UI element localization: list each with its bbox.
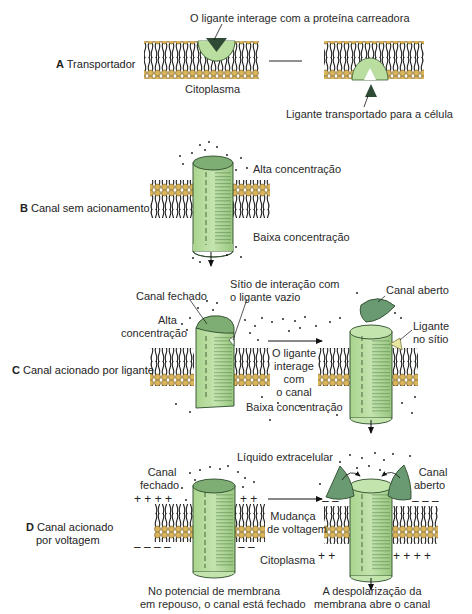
label-channel-open: Canal aberto	[386, 284, 449, 297]
label-ligand-interacts-line4: o canal	[268, 386, 320, 399]
svg-text:– – – –: – – – –	[134, 540, 171, 554]
panel-a-title: A Transportador	[56, 58, 136, 71]
panel-b-title: B Canal sem acionamento	[20, 202, 150, 215]
label-high-line1: Alta	[158, 314, 177, 327]
label-low-concentration: Baixa concentração	[246, 401, 343, 414]
label-voltage-change-line2: de voltagem	[262, 523, 332, 536]
gate-flap-right	[388, 465, 411, 500]
label-resting-line2: em repouso, o canal está fechado	[140, 598, 288, 611]
panel-d-title-line2: por voltagem	[36, 534, 100, 547]
label-ligand-bound-line2: no sítio	[413, 333, 448, 346]
label-extracellular-fluid: Líquido extracelular	[237, 451, 333, 464]
label-closed-line1: Canal	[140, 466, 184, 479]
panel-d-title-line1: D Canal acionado	[26, 521, 113, 534]
svg-text:+ + + +: + + + +	[393, 549, 431, 563]
label-ligand-binds-carrier: O ligante interage com a proteína carrea…	[190, 12, 410, 25]
label-cytoplasm: Citoplasma	[260, 554, 315, 567]
svg-text:+ +: + +	[240, 492, 257, 506]
gate-flap-left	[326, 466, 354, 499]
label-ligand-interacts-line3: com	[268, 373, 320, 386]
label-ligand-interacts-line1: O ligante	[268, 347, 320, 360]
svg-text:– – –: – – –	[412, 494, 439, 508]
label-ligand-interacts-line2: interage	[268, 360, 320, 373]
label-ligand-bound-line1: Ligante	[413, 320, 449, 333]
label-low-concentration: Baixa concentração	[253, 231, 350, 244]
label-high-concentration: Alta concentração	[253, 163, 341, 176]
panel-c-title: C Canal acionado por ligante	[12, 364, 154, 377]
label-cytoplasm: Citoplasma	[185, 83, 240, 96]
label-channel-closed: Canal fechado	[136, 290, 207, 303]
svg-text:+ + + +: + + + +	[134, 492, 172, 506]
label-voltage-change-line1: Mudança	[258, 510, 328, 523]
svg-text:+ +: + +	[318, 549, 335, 563]
label-closed-line2: fechado	[140, 479, 179, 492]
label-resting-line1: No potencial de membrana	[140, 585, 288, 598]
svg-text:– –: – –	[238, 540, 255, 554]
channel-gate-lid	[360, 299, 395, 322]
label-binding-site-line2: o ligante vazio	[230, 291, 300, 304]
label-open-line1: Canal	[413, 466, 453, 479]
label-high-line2: concentração	[121, 327, 187, 340]
label-binding-site-line1: Sítio de interação com	[230, 278, 339, 291]
label-ligand-transported: Ligante transportado para a célula	[286, 108, 453, 121]
label-depolarization-line2: membrana abre o canal	[312, 598, 432, 611]
label-depolarization-line1: A despolarização da	[312, 585, 432, 598]
panel-b-ungated-channel	[150, 141, 270, 266]
label-open-line2: aberto	[414, 479, 445, 492]
ligand-icon	[365, 84, 377, 97]
